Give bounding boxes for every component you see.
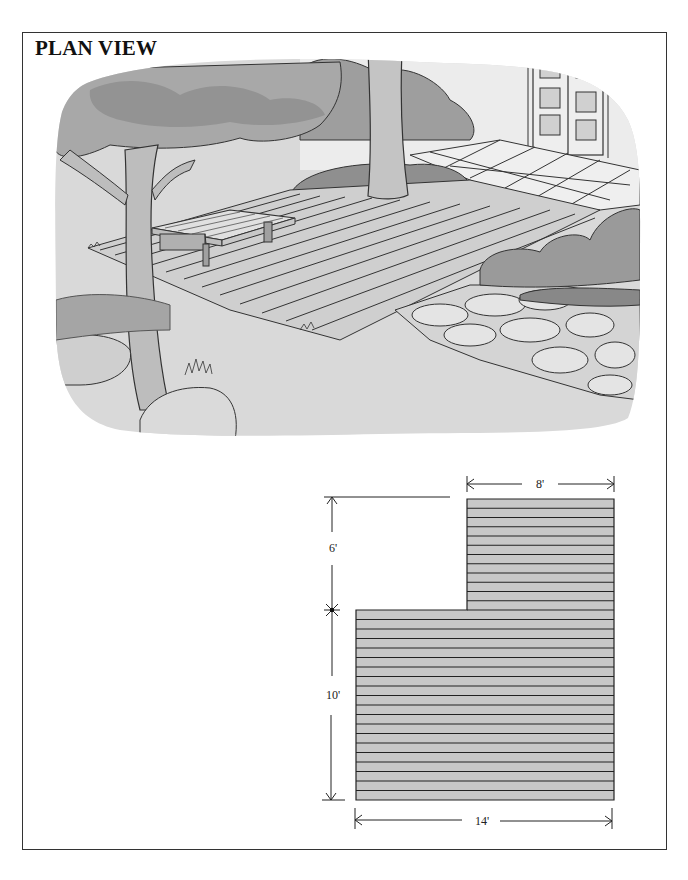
dimension-label-10ft: 10' <box>326 688 340 702</box>
dimension-label-8ft: 8' <box>536 477 544 491</box>
dimension-label-6ft: 6' <box>329 541 337 555</box>
dimension-label-14ft: 14' <box>475 814 489 828</box>
plan-diagram: 8' 6' 10' 14' <box>0 0 688 880</box>
dimension-junction-dot <box>330 608 334 612</box>
deck-plan-shape <box>356 499 614 800</box>
